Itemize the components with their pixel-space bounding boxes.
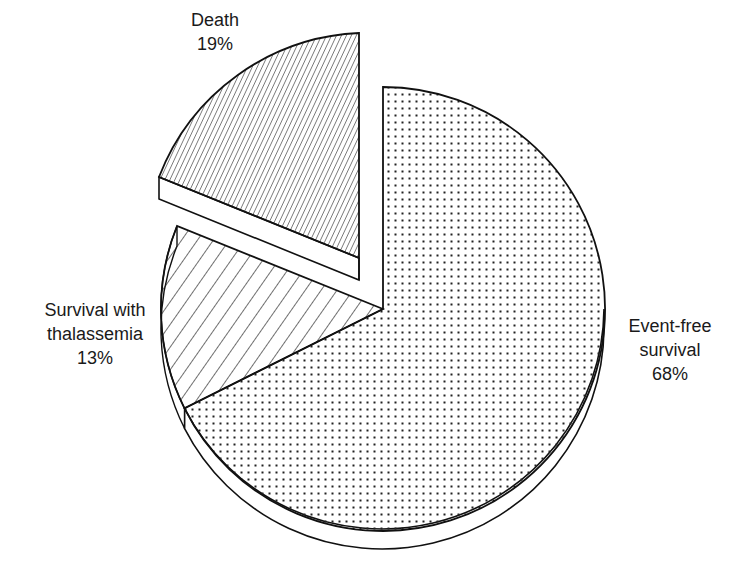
label-efs-line2: survival	[602, 338, 738, 362]
label-efs-line1: Event-free	[602, 314, 738, 338]
pie-chart-svg	[0, 0, 738, 576]
pie-chart: Death 19% Survival with thalassemia 13% …	[0, 0, 738, 576]
label-death-value: 19%	[160, 32, 270, 56]
label-death: Death 19%	[160, 8, 270, 56]
label-thal-line2: thalassemia	[0, 322, 190, 346]
label-thal-line1: Survival with	[0, 298, 190, 322]
label-thal-value: 13%	[0, 346, 190, 370]
label-efs-value: 68%	[602, 362, 738, 386]
label-survival-with-thalassemia: Survival with thalassemia 13%	[0, 298, 190, 370]
label-death-name: Death	[160, 8, 270, 32]
label-event-free-survival: Event-free survival 68%	[602, 314, 738, 386]
